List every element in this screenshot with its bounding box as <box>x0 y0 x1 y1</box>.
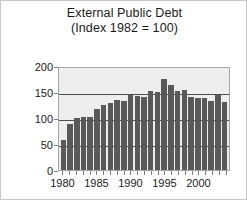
x-axis-ticks <box>58 171 230 175</box>
bar <box>87 117 93 170</box>
x-axis-tick-mark <box>188 171 195 175</box>
bar <box>74 118 80 170</box>
x-axis: 19801985199019952000 <box>58 177 230 193</box>
x-axis-tick-mark <box>86 171 93 175</box>
bar <box>141 97 147 170</box>
bar <box>148 91 154 170</box>
bar-series <box>59 68 229 170</box>
x-axis-tick-label: 1995 <box>152 177 176 189</box>
x-axis-tick-mark <box>222 171 229 175</box>
x-axis-tick-mark <box>209 171 216 175</box>
x-axis-tick-label: 2000 <box>186 177 210 189</box>
x-axis-tick-mark <box>181 171 188 175</box>
x-axis-tick-mark <box>107 171 114 175</box>
bar <box>222 102 228 170</box>
x-axis-tick-mark <box>66 171 73 175</box>
x-axis-tick-mark <box>59 171 66 175</box>
y-axis: 050100150200 <box>1 1 53 200</box>
x-axis-tick-label: 1990 <box>118 177 142 189</box>
bar <box>215 95 221 170</box>
y-axis-tick-label: 50 <box>1 139 53 151</box>
bar <box>208 101 214 170</box>
plot-area <box>58 67 230 171</box>
x-axis-tick-mark <box>73 171 80 175</box>
y-axis-tick-label: 200 <box>1 61 53 73</box>
bar <box>128 95 134 170</box>
x-axis-tick-mark <box>141 171 148 175</box>
y-axis-tick-label: 0 <box>1 165 53 177</box>
x-axis-tick-label: 1985 <box>84 177 108 189</box>
bar <box>182 90 188 170</box>
bar <box>108 103 114 170</box>
bar <box>61 140 67 170</box>
x-axis-tick-mark <box>134 171 141 175</box>
x-axis-tick-mark <box>161 171 168 175</box>
y-axis-tick-label: 150 <box>1 87 53 99</box>
x-axis-tick-mark <box>147 171 154 175</box>
x-axis-tick-mark <box>215 171 222 175</box>
bar <box>161 79 167 170</box>
bar <box>81 117 87 170</box>
bar <box>101 105 107 170</box>
x-axis-tick-mark <box>120 171 127 175</box>
bar <box>114 100 120 170</box>
bar <box>202 98 208 170</box>
x-axis-tick-mark <box>175 171 182 175</box>
bar <box>67 124 73 170</box>
x-axis-tick-label: 1980 <box>50 177 74 189</box>
bar <box>121 101 127 170</box>
x-axis-tick-mark <box>113 171 120 175</box>
x-axis-tick-mark <box>93 171 100 175</box>
bar <box>155 92 161 170</box>
bar <box>175 91 181 170</box>
x-axis-tick-mark <box>127 171 134 175</box>
x-axis-tick-mark <box>195 171 202 175</box>
y-axis-tick-label: 100 <box>1 113 53 125</box>
x-axis-tick-mark <box>154 171 161 175</box>
chart-container: External Public Debt (Index 1982 = 100) … <box>0 0 247 200</box>
x-axis-tick-mark <box>79 171 86 175</box>
x-axis-tick-mark <box>100 171 107 175</box>
x-axis-tick-mark <box>202 171 209 175</box>
bar <box>94 109 100 170</box>
x-axis-tick-mark <box>168 171 175 175</box>
bar <box>188 97 194 170</box>
bar <box>168 85 174 170</box>
bar <box>195 98 201 170</box>
bar <box>135 96 141 170</box>
